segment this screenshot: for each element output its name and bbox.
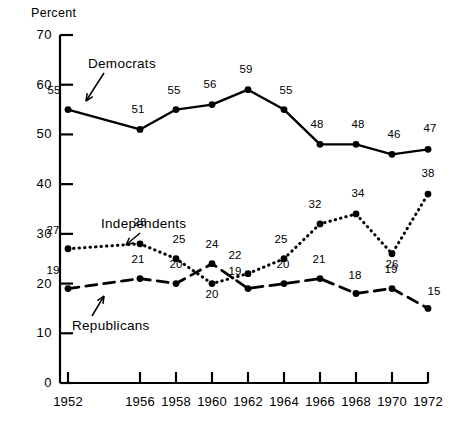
marker-democrats-1958 [173, 106, 180, 113]
arrow-democrats [86, 73, 104, 101]
marker-republicans-1958 [173, 280, 180, 287]
value-label-republicans-1960: 24 [200, 238, 224, 250]
value-label-republicans-1956: 21 [126, 253, 150, 265]
value-label-independents-1966: 32 [303, 198, 327, 210]
value-label-democrats-1962: 59 [234, 63, 258, 75]
marker-democrats-1956 [137, 126, 144, 133]
value-label-republicans-1958: 20 [164, 258, 188, 270]
marker-democrats-1960 [209, 101, 216, 108]
marker-republicans-1970 [389, 285, 396, 292]
marker-independents-1956 [137, 240, 144, 247]
annotation-independents: Independents [101, 216, 186, 231]
value-label-independents-1972: 38 [416, 167, 440, 179]
value-label-republicans-1972: 15 [422, 285, 446, 297]
value-label-democrats-1964: 55 [274, 84, 298, 96]
value-label-republicans-1970: 19 [379, 263, 403, 275]
value-label-democrats-1968: 48 [346, 118, 370, 130]
marker-republicans-1964 [281, 280, 288, 287]
value-label-republicans-1966: 21 [307, 253, 331, 265]
marker-independents-1972 [425, 191, 432, 198]
value-label-independents-1952: 27 [41, 224, 65, 236]
marker-democrats-1964 [281, 106, 288, 113]
marker-democrats-1970 [389, 151, 396, 158]
series-markers [65, 86, 432, 312]
marker-democrats-1966 [317, 141, 324, 148]
value-label-democrats-1952: 55 [42, 84, 66, 96]
value-label-republicans-1962: 19 [223, 265, 247, 277]
value-label-republicans-1968: 18 [343, 269, 367, 281]
value-label-democrats-1956: 51 [126, 103, 150, 115]
value-label-democrats-1960: 56 [198, 78, 222, 90]
marker-independents-1960 [209, 280, 216, 287]
value-label-republicans-1964: 20 [271, 258, 295, 270]
marker-independents-1968 [353, 211, 360, 218]
value-label-independents-1960: 20 [200, 288, 224, 300]
value-label-independents-1964: 25 [269, 233, 293, 245]
annotation-democrats: Democrats [88, 56, 156, 71]
marker-republicans-1968 [353, 290, 360, 297]
marker-republicans-1960 [209, 260, 216, 267]
marker-democrats-1972 [425, 146, 432, 153]
value-label-independents-1968: 34 [346, 187, 370, 199]
annotation-republicans: Republicans [72, 318, 150, 333]
marker-democrats-1962 [245, 86, 252, 93]
marker-republicans-1956 [137, 275, 144, 282]
plot-area [0, 0, 459, 426]
value-label-democrats-1958: 55 [162, 84, 186, 96]
marker-republicans-1966 [317, 275, 324, 282]
party-identification-line-chart: Percent 010203040506070 1952195619581960… [0, 0, 459, 426]
series-line-democrats [68, 90, 428, 155]
marker-republicans-1952 [65, 285, 72, 292]
marker-democrats-1952 [65, 106, 72, 113]
value-label-independents-1958: 25 [167, 233, 191, 245]
marker-republicans-1972 [425, 305, 432, 312]
arrow-republicans [92, 296, 104, 316]
series-line-independents [68, 194, 428, 283]
value-label-democrats-1966: 48 [305, 118, 329, 130]
marker-republicans-1962 [245, 285, 252, 292]
marker-democrats-1968 [353, 141, 360, 148]
value-label-democrats-1972: 47 [418, 122, 442, 134]
marker-independents-1952 [65, 245, 72, 252]
value-label-independents-1962: 22 [223, 249, 247, 261]
value-label-republicans-1952: 19 [41, 264, 65, 276]
marker-independents-1970 [389, 250, 396, 257]
marker-independents-1966 [317, 221, 324, 228]
value-label-democrats-1970: 46 [382, 128, 406, 140]
